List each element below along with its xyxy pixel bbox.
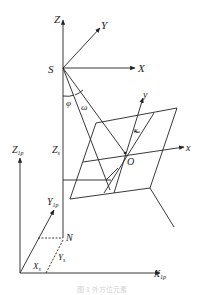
label-s: S xyxy=(48,63,54,75)
label-omega: ω xyxy=(81,102,87,112)
figure-caption: 图 1 外方位元素 xyxy=(0,284,204,294)
y-axis-image xyxy=(114,98,143,193)
label-z: Z xyxy=(54,13,61,25)
label-ys: Ys xyxy=(58,252,66,263)
label-n: N xyxy=(65,232,74,243)
image-plane xyxy=(70,108,177,199)
label-zs: Zs xyxy=(52,144,61,156)
label-z1p: Z1p xyxy=(12,144,24,156)
phi-arc xyxy=(63,95,74,96)
label-x-image: x xyxy=(185,142,191,153)
label-y: Y xyxy=(101,19,109,31)
y-axis-upper xyxy=(63,28,100,68)
label-y1p: Y1p xyxy=(47,196,59,208)
ray-phi xyxy=(63,68,110,190)
label-x1p: X1p xyxy=(153,268,166,280)
coordinate-diagram: Z Y X S φ ω y κ x O Zs Z1p Y1p N Ys Xs X… xyxy=(0,0,204,295)
label-phi: φ xyxy=(66,98,71,108)
label-y-image: y xyxy=(142,89,148,100)
label-xs: Xs xyxy=(32,261,42,272)
ray-omega xyxy=(63,68,125,153)
point-o xyxy=(124,152,127,155)
label-o: O xyxy=(127,156,134,167)
label-x: X xyxy=(137,62,146,74)
ground-projection-line xyxy=(150,188,174,227)
label-kappa: κ xyxy=(134,126,138,135)
